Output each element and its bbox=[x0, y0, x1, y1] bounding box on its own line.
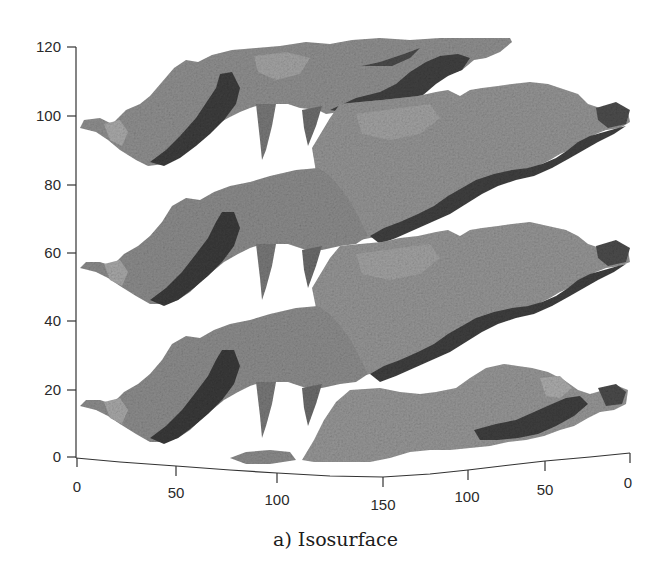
z-tick-label: 20 bbox=[44, 381, 61, 398]
z-tick-label: 60 bbox=[44, 244, 61, 261]
x-tick-label: 100 bbox=[454, 488, 479, 505]
x-tick-label: 50 bbox=[168, 484, 185, 501]
x-tick-label: 0 bbox=[624, 474, 632, 491]
figure-caption: a) Isosurface bbox=[0, 528, 671, 550]
z-tick-label: 0 bbox=[53, 448, 61, 465]
z-axis: 120 100 80 60 40 20 0 bbox=[36, 38, 76, 465]
z-axis-ticks bbox=[67, 47, 76, 457]
isosurface-figure: 120 100 80 60 40 20 0 0 50 100 150 100 5… bbox=[0, 0, 671, 585]
z-tick-label: 120 bbox=[36, 38, 61, 55]
x-tick-label: 100 bbox=[264, 491, 289, 508]
z-tick-label: 80 bbox=[44, 176, 61, 193]
z-tick-label: 100 bbox=[36, 107, 61, 124]
z-tick-label: 40 bbox=[44, 312, 61, 329]
x-tick-label: 50 bbox=[537, 481, 554, 498]
x-tick-label: 150 bbox=[370, 496, 395, 513]
x-tick-label: 0 bbox=[73, 478, 81, 495]
